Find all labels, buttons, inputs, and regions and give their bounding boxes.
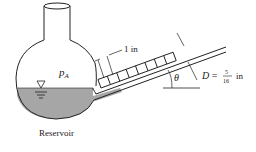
scale-label: 1 in — [124, 44, 138, 54]
reservoir-label: Reservoir — [39, 128, 74, 138]
diameter-numerator: 5 — [225, 69, 228, 75]
pressure-label: pA — [58, 66, 70, 80]
bulb-side — [95, 63, 96, 86]
diameter-denominator: 16 — [223, 78, 229, 84]
neck-opening — [44, 3, 70, 9]
angle-label: θ — [174, 72, 179, 83]
diameter-dimension — [177, 33, 197, 80]
pressure-subscript: A — [64, 72, 70, 80]
free-surface-icon — [37, 81, 45, 88]
reservoir-liquid — [17, 88, 103, 119]
diameter-label: D = — [201, 70, 218, 81]
tube-scale — [98, 52, 176, 88]
manometer-diagram: 1 in θ D = 5 16 in pA Reservoir — [0, 0, 256, 152]
diagram-svg: 1 in θ D = 5 16 in pA Reservoir — [0, 0, 256, 152]
diameter-unit: in — [236, 71, 244, 81]
